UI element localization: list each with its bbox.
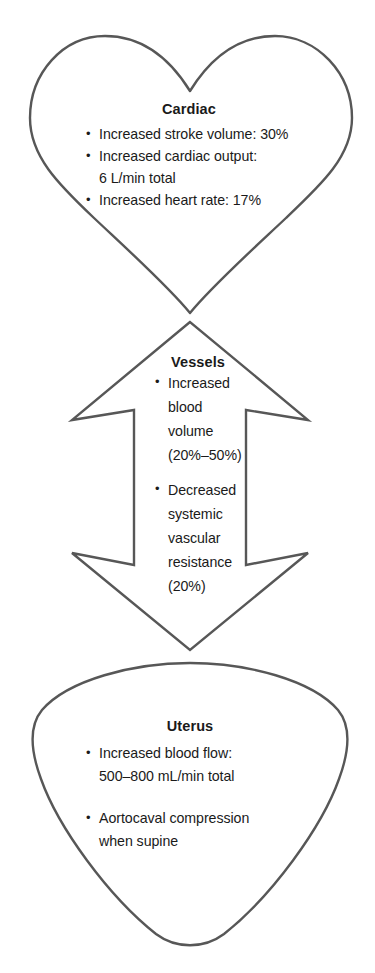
list-item: Aortocaval compression bbox=[86, 807, 318, 830]
bullet-group-spacer bbox=[150, 467, 274, 477]
list-item-continuation: 500–800 mL/min total bbox=[86, 765, 318, 788]
list-item-continuation: systemic bbox=[155, 502, 274, 526]
vessels-bullet-list: Increased blood volume (20%–50%) bbox=[150, 371, 274, 467]
list-item: Increased heart rate: 17% bbox=[86, 189, 322, 211]
vessels-section: Vessels Increased blood volume (20%–50%)… bbox=[150, 354, 274, 598]
cardiac-bullet-list: Increased stroke volume: 30% Increased c… bbox=[62, 123, 322, 211]
cardiac-section: Cardiac Increased stroke volume: 30% Inc… bbox=[62, 101, 322, 211]
list-item-continuation: 6 L/min total bbox=[86, 167, 322, 189]
list-item: Decreased bbox=[155, 478, 274, 502]
list-item-continuation: resistance bbox=[155, 550, 274, 574]
list-item-continuation: (20%) bbox=[155, 574, 274, 598]
list-item-continuation: (20%–50%) bbox=[155, 443, 274, 467]
cardiovascular-changes-diagram: Cardiac Increased stroke volume: 30% Inc… bbox=[0, 0, 375, 973]
list-item: Increased bbox=[155, 371, 274, 395]
list-item: Increased stroke volume: 30% bbox=[86, 123, 322, 145]
cardiac-title: Cardiac bbox=[62, 101, 316, 117]
list-item-continuation: volume bbox=[155, 419, 274, 443]
vessels-bullet-list-secondary: Decreased systemic vascular resistance (… bbox=[150, 478, 274, 598]
uterus-bullet-list-secondary: Aortocaval compression when supine bbox=[66, 807, 318, 853]
list-item-continuation: blood bbox=[155, 395, 274, 419]
vessels-title: Vessels bbox=[150, 354, 246, 370]
uterus-section: Uterus Increased blood flow: 500–800 mL/… bbox=[66, 718, 318, 853]
uterus-title: Uterus bbox=[66, 718, 314, 734]
uterus-bullet-list: Increased blood flow: 500–800 mL/min tot… bbox=[66, 742, 318, 788]
list-item: Increased blood flow: bbox=[86, 742, 318, 765]
list-item-continuation: when supine bbox=[86, 830, 318, 853]
bullet-group-spacer bbox=[66, 788, 318, 799]
list-item: Increased cardiac output: bbox=[86, 145, 322, 167]
list-item-continuation: vascular bbox=[155, 526, 274, 550]
